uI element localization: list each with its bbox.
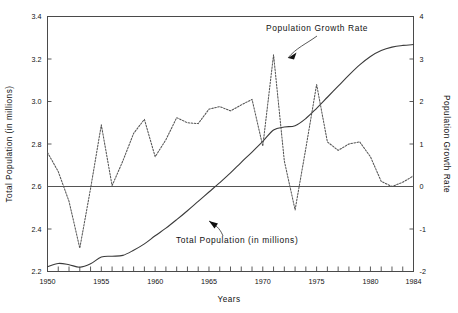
x-ticklabel: 1955 (93, 277, 109, 286)
y-ticklabel-left: 2.2 (32, 267, 42, 276)
y-ticklabel-left: 2.8 (32, 140, 42, 149)
series-total-population (48, 45, 414, 268)
y-axis-right-ticklabels: -2-101234 (420, 12, 426, 276)
y-ticklabel-right: 2 (420, 97, 424, 106)
y-ticklabel-left: 2.6 (32, 182, 42, 191)
series-population-growth-rate (48, 55, 414, 248)
y-axis-left-title: Total Population (in millions) (5, 86, 14, 203)
x-ticklabel: 1984 (406, 277, 422, 286)
y-axis-right-ticks (410, 17, 414, 272)
y-ticklabel-right: -2 (420, 267, 426, 276)
y-ticklabel-left: 2.4 (32, 225, 42, 234)
chart-figure: 2.22.42.62.83.03.23.4 -2-101234 19501955… (0, 0, 458, 313)
x-axis-ticks (48, 267, 414, 272)
y-axis-left-ticklabels: 2.22.42.62.83.03.23.4 (32, 12, 42, 276)
y-ticklabel-right: 0 (420, 182, 424, 191)
chart-canvas: 2.22.42.62.83.03.23.4 -2-101234 19501955… (0, 0, 458, 313)
plot-frame (48, 17, 414, 272)
y-axis-right-title: Population Growth Rate (442, 95, 451, 193)
x-ticklabel: 1975 (309, 277, 325, 286)
annotation-total-population: Total Population (in millions) (176, 235, 298, 245)
annotation-leader-growth (288, 36, 317, 58)
x-ticklabel: 1970 (255, 277, 271, 286)
y-ticklabel-right: -1 (420, 225, 426, 234)
y-ticklabel-left: 3.2 (32, 55, 42, 64)
y-ticklabel-left: 3.4 (32, 12, 42, 21)
y-ticklabel-left: 3.0 (32, 97, 42, 106)
x-axis-title: Years (217, 295, 240, 304)
x-ticklabel: 1965 (201, 277, 217, 286)
x-ticklabel: 1980 (362, 277, 378, 286)
y-ticklabel-right: 3 (420, 55, 424, 64)
x-ticklabel: 1950 (40, 277, 56, 286)
annotation-population-growth-rate: Population Growth Rate (266, 23, 368, 33)
y-ticklabel-right: 4 (420, 12, 424, 21)
y-axis-left-ticks (48, 17, 52, 272)
annotation-arrowhead-population (209, 221, 218, 229)
x-ticklabel: 1960 (147, 277, 163, 286)
x-axis-ticklabels: 19501955196019651970197519801984 (40, 277, 422, 286)
y-ticklabel-right: 1 (420, 140, 424, 149)
